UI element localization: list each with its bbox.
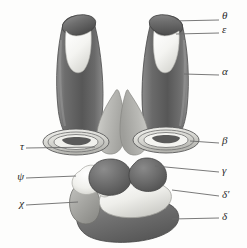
anatomical-figure: θ ε α β γ δ′ δ τ ψ χ — [0, 0, 247, 248]
label-gamma: γ — [222, 165, 226, 176]
label-epsilon: ε — [222, 24, 226, 35]
label-delta: δ — [222, 211, 227, 222]
label-tau: τ — [10, 141, 24, 152]
leader-line-alpha — [184, 74, 219, 75]
right-ring-group — [133, 127, 199, 153]
left-column-group — [57, 12, 103, 146]
label-beta: β — [222, 135, 227, 146]
leader-line-delta-prime — [172, 190, 219, 196]
upper-dark-lobe-left — [89, 159, 132, 195]
figure-illustration — [0, 0, 247, 248]
label-psi: ψ — [10, 171, 24, 182]
label-theta: θ — [222, 10, 227, 21]
upper-dark-lobe-right — [129, 158, 167, 191]
label-alpha: α — [222, 66, 228, 77]
left-ring-group — [43, 129, 109, 155]
label-chi: χ — [10, 198, 24, 209]
right-column-group — [142, 12, 188, 146]
leader-line-psi — [26, 176, 76, 178]
label-delta-prime: δ′ — [222, 189, 230, 200]
